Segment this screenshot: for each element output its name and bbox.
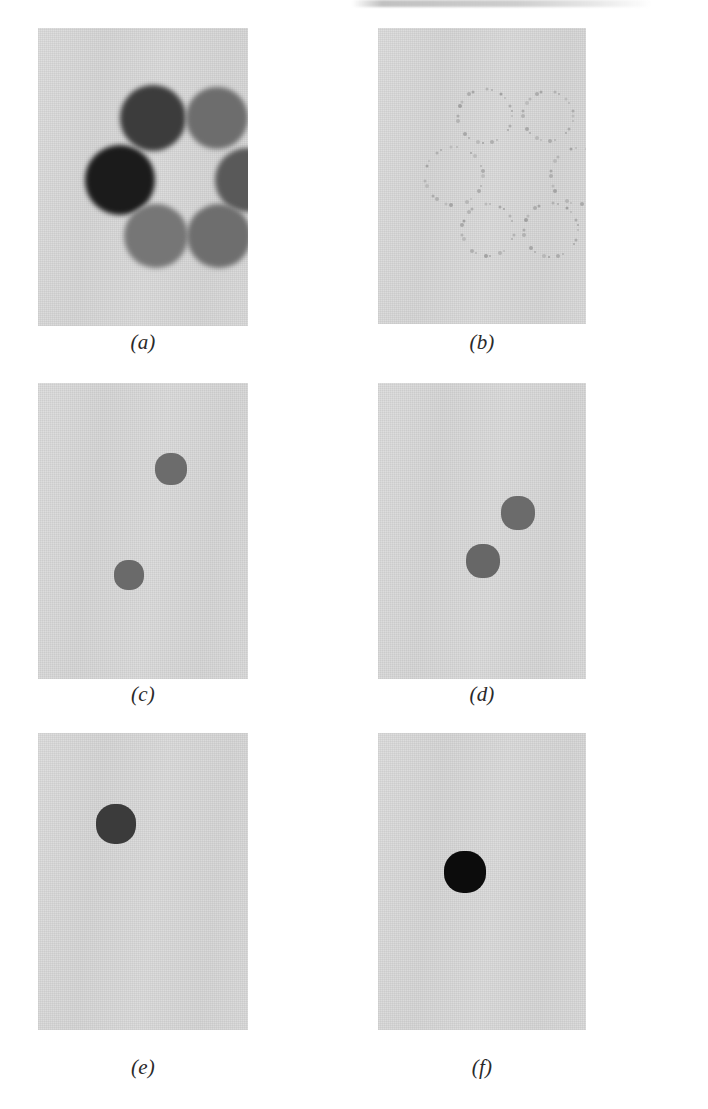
- panel-f-image: [378, 733, 586, 1030]
- panel-f-blob-single: [444, 851, 486, 893]
- panel-f-cell: (f): [0, 0, 708, 1109]
- panel-f-caption: (f): [378, 1055, 586, 1080]
- figure-panel-grid: (a)(b)(c)(d)(e)(f): [0, 0, 708, 1109]
